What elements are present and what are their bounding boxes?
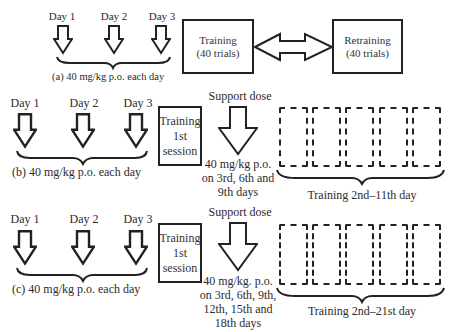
day-label: Day 2 [70,97,99,110]
caption-line: on 3rd, 6th and [202,171,275,185]
dose-caption: (b) 40 mg/kg p.o. each day [12,166,141,179]
panel-c-training-brace [277,288,444,302]
day-label: Day 3 [124,97,153,110]
day-label: Day 3 [124,213,153,226]
panel-b-day-arrows [14,114,147,146]
box-line: 1st [160,129,201,144]
down-arrow-icon [14,231,36,263]
dashed-training-box [345,224,374,285]
dashed-training-box [412,107,441,167]
dashed-caption: Training 2nd–11th day [307,189,416,202]
panel-a-day-arrows [54,26,170,53]
box-line: Training [160,231,201,246]
support-dose-caption: 40 mg/kg. p.o. on 3rd, 6th, 9th, 12th, 1… [200,274,277,330]
box-line: (40 trials) [196,47,239,60]
box-line: Training [196,34,239,47]
down-arrow-icon [125,114,147,146]
dashed-training-box [312,224,341,285]
panel-a-brace [57,57,170,68]
panel-b-training-brace [277,170,444,184]
down-arrow-icon [72,231,94,263]
day-label: Day 1 [11,213,40,226]
double-arrow-icon [255,34,332,60]
box-line: (40 trials) [344,47,390,60]
panel-c-brace [17,268,147,281]
caption-line: 9th days [202,185,275,199]
dashed-training-box [345,107,374,167]
box-line: session [160,261,201,276]
box-line: Training [160,114,201,129]
dashed-caption: Training 2nd–21st day [308,305,416,318]
box-line: 1st [160,246,201,261]
panel-c-day-arrows [14,231,147,263]
day-label: Day 1 [49,10,76,23]
support-dose-caption: 40 mg/kg p.o. on 3rd, 6th and 9th days [202,157,275,199]
down-arrow-icon [54,26,72,53]
caption-line: on 3rd, 6th, 9th, [200,288,277,302]
support-dose-label: Support dose [209,206,272,219]
dashed-training-box [379,224,408,285]
day-label: Day 2 [101,10,128,23]
day-label: Day 3 [149,10,176,23]
caption-line: 40 mg/kg p.o. [202,157,275,171]
dashed-training-box [379,107,408,167]
down-arrow-icon [14,114,36,146]
training-first-session-box: Training 1st session [158,106,202,166]
caption-line: 12th, 15th and [200,302,277,316]
panel-b-brace [17,151,147,164]
dose-caption: (c) 40 mg/kg p.o. each day [12,283,140,296]
dashed-training-box [279,107,308,167]
down-arrow-icon [105,26,123,53]
down-arrow-icon [125,231,147,263]
retraining-box: Retraining (40 trials) [332,19,403,74]
down-arrow-icon [152,26,170,53]
down-arrow-icon [72,114,94,146]
training-first-session-box: Training 1st session [158,223,202,283]
support-dose-arrow-icon [219,107,257,154]
dashed-training-box [412,224,441,285]
dose-caption: (a) 40 mg/kg p.o. each day [52,70,164,83]
support-dose-arrow-icon [219,223,257,270]
day-label: Day 2 [70,213,99,226]
training-box: Training (40 trials) [182,19,254,74]
day-label: Day 1 [11,97,40,110]
support-dose-label: Support dose [209,90,272,103]
box-line: session [160,144,201,159]
caption-line: 40 mg/kg. p.o. [200,274,277,288]
caption-line: 18th days [200,316,277,330]
box-line: Retraining [344,34,390,47]
dashed-training-box [279,224,308,285]
dashed-training-box [312,107,341,167]
